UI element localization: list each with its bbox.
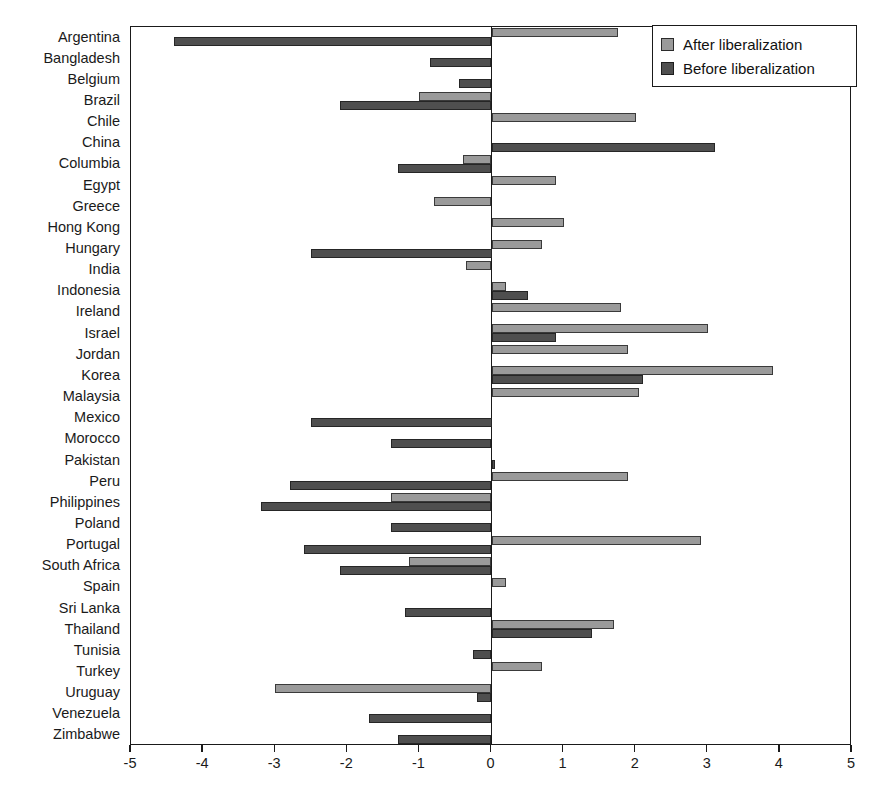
bar-after-south-africa xyxy=(409,557,492,566)
category-label: Israel xyxy=(0,326,120,341)
category-label: Bangladesh xyxy=(0,51,120,66)
legend-label-after: After liberalization xyxy=(683,36,802,53)
bar-before-columbia xyxy=(398,164,492,173)
category-label: Uruguay xyxy=(0,685,120,700)
bar-after-portugal xyxy=(492,536,701,545)
legend-entry-before: Before liberalization xyxy=(661,60,848,77)
x-axis-tick xyxy=(418,745,419,752)
x-axis-tick-label: -1 xyxy=(412,755,425,771)
x-axis-tick-label: 3 xyxy=(703,755,711,771)
bar-before-sri-lanka xyxy=(405,608,492,617)
category-label: Greece xyxy=(0,199,120,214)
category-label: Peru xyxy=(0,474,120,489)
bar-before-uruguay xyxy=(477,693,491,702)
category-label: Belgium xyxy=(0,72,120,87)
category-label: Mexico xyxy=(0,410,120,425)
category-label: Turkey xyxy=(0,664,120,679)
bar-before-peru xyxy=(290,481,492,490)
bar-after-egypt xyxy=(492,176,557,185)
bar-after-greece xyxy=(434,197,492,206)
category-label: Argentina xyxy=(0,30,120,45)
bar-after-thailand xyxy=(492,620,615,629)
bar-after-israel xyxy=(492,324,708,333)
x-axis-tick xyxy=(634,745,635,752)
bar-after-turkey xyxy=(492,662,542,671)
category-label: Morocco xyxy=(0,431,120,446)
bar-before-mexico xyxy=(311,418,491,427)
category-axis-labels: ArgentinaBangladeshBelgiumBrazilChileChi… xyxy=(0,26,124,745)
x-axis-tick-label: 2 xyxy=(631,755,639,771)
bar-before-venezuela xyxy=(369,714,492,723)
category-label: Chile xyxy=(0,114,120,129)
bar-before-bangladesh xyxy=(430,58,491,67)
category-label: Indonesia xyxy=(0,283,120,298)
category-label: India xyxy=(0,262,120,277)
category-label: Malaysia xyxy=(0,389,120,404)
bar-before-thailand xyxy=(492,629,593,638)
bar-before-argentina xyxy=(174,37,491,46)
legend-swatch-after-icon xyxy=(661,38,674,51)
chart-figure: ArgentinaBangladeshBelgiumBrazilChileChi… xyxy=(0,0,873,803)
bar-after-malaysia xyxy=(492,388,640,397)
bar-before-tunisia xyxy=(473,650,491,659)
category-label: South Africa xyxy=(0,558,120,573)
x-axis-tick xyxy=(129,745,130,752)
x-axis-tick xyxy=(562,745,563,752)
category-label: Portugal xyxy=(0,537,120,552)
x-axis-tick-label: 1 xyxy=(559,755,567,771)
bar-before-belgium xyxy=(459,79,491,88)
x-axis: -5-4-3-2-1012345 xyxy=(130,745,851,803)
category-label: Hong Kong xyxy=(0,220,120,235)
bar-after-brazil xyxy=(419,92,491,101)
category-label: Columbia xyxy=(0,156,120,171)
plot-area xyxy=(130,26,851,745)
bar-before-brazil xyxy=(340,101,491,110)
legend-label-before: Before liberalization xyxy=(683,60,815,77)
bar-after-korea xyxy=(492,366,773,375)
bar-before-hungary xyxy=(311,249,491,258)
bar-after-peru xyxy=(492,472,629,481)
bar-before-pakistan xyxy=(492,460,496,469)
bar-after-indonesia xyxy=(492,282,506,291)
category-label: Pakistan xyxy=(0,453,120,468)
bar-before-zimbabwe xyxy=(398,735,492,744)
bar-before-morocco xyxy=(391,439,492,448)
bar-before-indonesia xyxy=(492,291,528,300)
category-label: Venezuela xyxy=(0,706,120,721)
category-label: Ireland xyxy=(0,304,120,319)
bar-after-india xyxy=(466,261,491,270)
category-label: Jordan xyxy=(0,347,120,362)
category-label: Sri Lanka xyxy=(0,601,120,616)
bar-after-argentina xyxy=(492,28,618,37)
x-axis-tick-label: -5 xyxy=(124,755,137,771)
x-axis-tick xyxy=(346,745,347,752)
bar-before-korea xyxy=(492,375,643,384)
bar-after-hungary xyxy=(492,240,542,249)
category-label: Tunisia xyxy=(0,643,120,658)
bar-after-hong-kong xyxy=(492,218,564,227)
x-axis-tick xyxy=(850,745,851,752)
category-label: Spain xyxy=(0,579,120,594)
bar-before-philippines xyxy=(261,502,492,511)
bar-after-ireland xyxy=(492,303,622,312)
category-label: Poland xyxy=(0,516,120,531)
x-axis-tick-label: -3 xyxy=(268,755,281,771)
category-label: China xyxy=(0,135,120,150)
bar-before-portugal xyxy=(304,545,491,554)
legend-entry-after: After liberalization xyxy=(661,36,848,53)
legend: After liberalization Before liberalizati… xyxy=(652,25,857,87)
bar-before-poland xyxy=(391,523,492,532)
bar-after-uruguay xyxy=(275,684,491,693)
x-axis-tick xyxy=(490,745,491,752)
bar-after-columbia xyxy=(463,155,492,164)
category-label: Hungary xyxy=(0,241,120,256)
x-axis-tick-label: -2 xyxy=(340,755,353,771)
x-axis-tick xyxy=(201,745,202,752)
category-label: Philippines xyxy=(0,495,120,510)
category-label: Thailand xyxy=(0,622,120,637)
legend-swatch-before-icon xyxy=(661,62,674,75)
category-label: Brazil xyxy=(0,93,120,108)
bar-after-jordan xyxy=(492,345,629,354)
category-label: Egypt xyxy=(0,178,120,193)
bar-before-israel xyxy=(492,333,557,342)
